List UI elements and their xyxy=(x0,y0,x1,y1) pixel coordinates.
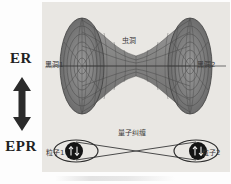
er-label: ER xyxy=(0,51,42,66)
wormhole-label: 虫洞 xyxy=(122,38,136,45)
figure-panel: 虫洞 黑洞1 黑洞2 量子纠缠 粒子1 粒子2 xyxy=(42,2,230,172)
scan-artifact xyxy=(55,176,175,181)
black-hole-2-label: 黑洞2 xyxy=(197,62,215,69)
black-hole-1-label: 黑洞1 xyxy=(45,62,63,69)
figure-root: ER EPR xyxy=(0,0,231,184)
quantum-entanglement-label: 量子纠缠 xyxy=(118,130,146,137)
particle-1-label: 粒子1 xyxy=(46,150,64,157)
particle-2-label: 粒子2 xyxy=(202,150,220,157)
epr-label: EPR xyxy=(0,139,42,154)
double-headed-vertical-arrow-icon xyxy=(11,76,33,132)
